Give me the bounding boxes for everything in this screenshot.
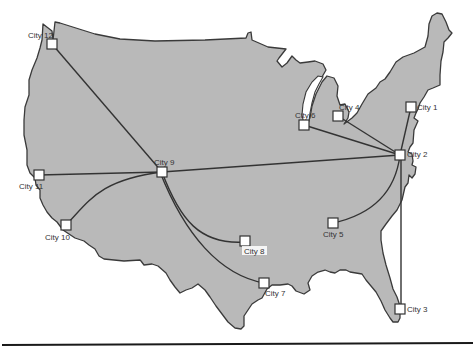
city-5-node[interactable] [328,218,338,228]
us-landmass [24,13,452,329]
city-10-label: City 10 [45,233,70,242]
city-11-label: City 11 [19,182,44,191]
city-10-node[interactable] [61,220,71,230]
city-3-label: City 3 [407,305,428,314]
city-11-node[interactable] [34,170,44,180]
bottom-rule [2,343,473,345]
city-9-label: City 9 [154,158,175,167]
city-5-label: City 5 [323,230,344,239]
city-1-label: City 1 [417,103,438,112]
city-7-label: City 7 [265,289,286,298]
us-network-map: City 1 City 2 City 3 City 4 City 5 City … [0,0,475,349]
city-9-node[interactable] [157,167,167,177]
city-4-label: City 4 [339,103,360,112]
city-8-node[interactable] [240,236,250,246]
city-8-label: City 8 [244,247,265,256]
city-12-label: City 12 [28,31,53,40]
city-2-node[interactable] [395,150,405,160]
city-1-node[interactable] [406,102,416,112]
city-6-label: City 6 [295,111,316,120]
city-12-node[interactable] [47,39,57,49]
city-7-node[interactable] [259,278,269,288]
city-2-label: City 2 [407,150,428,159]
city-6-node[interactable] [299,120,309,130]
city-4-node[interactable] [333,111,343,121]
city-3-node[interactable] [395,304,405,314]
